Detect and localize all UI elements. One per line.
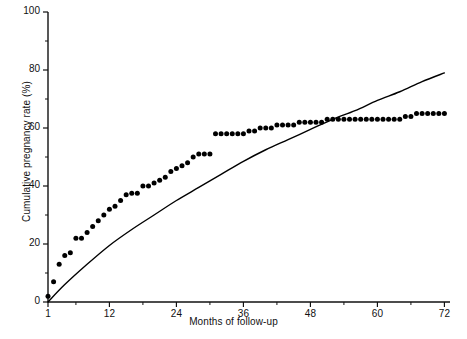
data-point	[101, 213, 106, 218]
y-tick-label: 100	[4, 5, 40, 16]
data-point	[79, 236, 84, 241]
y-tick-label: 20	[4, 237, 40, 248]
data-point	[397, 117, 402, 122]
x-tick-label: 36	[223, 308, 263, 319]
data-point	[157, 178, 162, 183]
data-point	[247, 128, 252, 133]
data-point	[403, 114, 408, 119]
data-point	[386, 117, 391, 122]
data-point	[113, 204, 118, 209]
data-point	[90, 224, 95, 229]
data-point	[196, 152, 201, 157]
observed-data-points	[46, 111, 447, 299]
x-tick-label: 12	[89, 308, 129, 319]
data-point	[431, 111, 436, 116]
axis-lines	[48, 12, 450, 302]
data-point	[235, 131, 240, 136]
fitted-model-curve	[48, 73, 444, 302]
x-tick-label: 24	[156, 308, 196, 319]
data-point	[219, 131, 224, 136]
data-point	[135, 191, 140, 196]
data-point	[146, 184, 151, 189]
data-point	[330, 117, 335, 122]
data-point	[62, 253, 67, 258]
chart-plot-area	[0, 0, 467, 339]
data-point	[425, 111, 430, 116]
data-point	[381, 117, 386, 122]
data-point	[314, 120, 319, 125]
data-point	[414, 111, 419, 116]
x-tick-label: 72	[424, 308, 464, 319]
data-point	[202, 152, 207, 157]
data-point	[68, 250, 73, 255]
model-curve-path	[48, 73, 444, 302]
data-point	[302, 120, 307, 125]
data-point	[73, 236, 78, 241]
x-tick-label: 60	[357, 308, 397, 319]
data-point	[274, 123, 279, 128]
data-point	[207, 152, 212, 157]
y-tick-label: 40	[4, 179, 40, 190]
y-tick-label: 60	[4, 121, 40, 132]
x-tick-label: 48	[290, 308, 330, 319]
data-point	[180, 163, 185, 168]
data-point	[252, 128, 257, 133]
data-point	[163, 175, 168, 180]
data-point	[291, 123, 296, 128]
data-point	[107, 207, 112, 212]
data-point	[408, 114, 413, 119]
data-point	[241, 131, 246, 136]
data-point	[174, 166, 179, 171]
data-point	[420, 111, 425, 116]
y-tick-label: 0	[4, 295, 40, 306]
data-point	[325, 117, 330, 122]
data-point	[213, 131, 218, 136]
data-point	[230, 131, 235, 136]
data-point	[442, 111, 447, 116]
data-point	[51, 279, 56, 284]
data-point	[319, 120, 324, 125]
data-point	[258, 126, 263, 131]
data-point	[369, 117, 374, 122]
data-point	[280, 123, 285, 128]
data-point	[96, 218, 101, 223]
data-point	[308, 120, 313, 125]
data-point	[185, 160, 190, 165]
data-point	[347, 117, 352, 122]
data-point	[436, 111, 441, 116]
y-axis-ticks	[43, 12, 48, 302]
data-point	[191, 155, 196, 160]
data-point	[286, 123, 291, 128]
x-tick-label: 1	[28, 308, 68, 319]
data-point	[129, 191, 134, 196]
data-point	[124, 192, 129, 197]
y-tick-label: 80	[4, 63, 40, 74]
data-point	[46, 294, 51, 299]
data-point	[336, 117, 341, 122]
data-point	[358, 117, 363, 122]
data-point	[118, 198, 123, 203]
data-point	[168, 169, 173, 174]
data-point	[152, 181, 157, 186]
data-point	[341, 117, 346, 122]
data-point	[85, 230, 90, 235]
figure: Months of follow-up Cumulative pregnancy…	[0, 0, 467, 339]
data-point	[353, 117, 358, 122]
y-axis-title: Cumulative pregnancy rate (%)	[21, 42, 32, 262]
data-point	[140, 184, 145, 189]
data-point	[392, 117, 397, 122]
data-point	[224, 131, 229, 136]
x-axis-ticks	[48, 302, 444, 307]
data-point	[375, 117, 380, 122]
data-point	[57, 262, 62, 267]
data-point	[269, 126, 274, 131]
data-point	[364, 117, 369, 122]
data-point	[263, 126, 268, 131]
data-point	[297, 120, 302, 125]
